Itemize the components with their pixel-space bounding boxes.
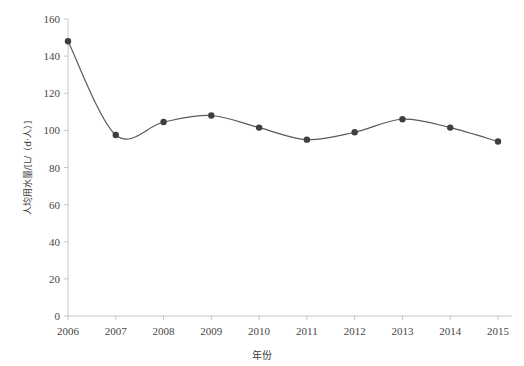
x-tick-label: 2009: [200, 325, 222, 337]
x-tick-label: 2012: [344, 325, 366, 337]
series-data-markers: [65, 38, 501, 145]
data-point-marker: [495, 138, 501, 144]
y-axis-tick-marks: [64, 19, 68, 316]
line-chart-plot: [0, 0, 524, 366]
y-tick-label: 140: [28, 50, 60, 62]
cropped-text-artifact: [0, 0, 524, 6]
y-tick-label: 0: [28, 310, 60, 322]
x-tick-label: 2011: [296, 325, 318, 337]
data-point-marker: [304, 136, 310, 142]
x-tick-label: 2015: [487, 325, 509, 337]
data-point-marker: [399, 116, 405, 122]
y-tick-label: 40: [28, 236, 60, 248]
x-tick-label: 2007: [105, 325, 127, 337]
data-point-marker: [160, 119, 166, 125]
x-tick-label: 2013: [391, 325, 413, 337]
x-axis-tick-marks: [68, 316, 498, 320]
y-tick-label: 20: [28, 273, 60, 285]
chart-figure: 020406080100120140160 200620072008200920…: [0, 0, 524, 366]
y-axis-title: 人均用水量/[L/（d·人）]: [21, 121, 34, 216]
x-axis-title: 年份: [252, 347, 272, 362]
x-tick-label: 2014: [439, 325, 461, 337]
axis-lines: [68, 19, 512, 316]
x-tick-label: 2006: [57, 325, 79, 337]
data-point-marker: [351, 129, 357, 135]
data-point-marker: [65, 38, 71, 44]
data-point-marker: [208, 112, 214, 118]
x-tick-label: 2010: [248, 325, 270, 337]
data-point-marker: [447, 124, 453, 130]
data-point-marker: [113, 132, 119, 138]
y-tick-label: 120: [28, 87, 60, 99]
series-line-path: [68, 41, 498, 141]
x-tick-label: 2008: [153, 325, 175, 337]
y-tick-label: 160: [28, 13, 60, 25]
data-point-marker: [256, 124, 262, 130]
